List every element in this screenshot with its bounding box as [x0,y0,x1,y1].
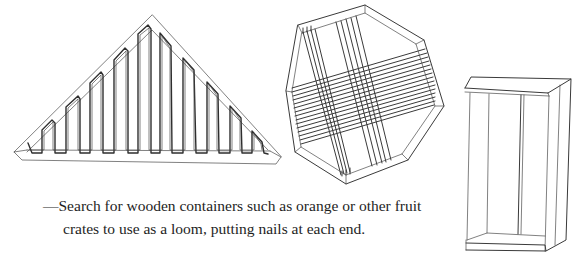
document-page: —Search for wooden containers such as or… [0,0,582,259]
octagonal-loom-drawing [286,5,444,184]
caption-line-1: —Search for wooden containers such as or… [43,194,483,217]
caption-line-2: crates to use as a loom, putting nails a… [43,217,483,240]
triangular-loom-drawing [14,15,281,164]
figure-caption: —Search for wooden containers such as or… [43,194,483,240]
